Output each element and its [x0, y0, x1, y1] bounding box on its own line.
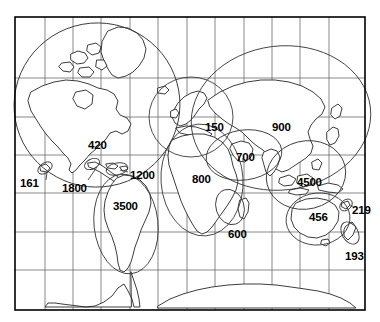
region-value-southern-africa: 600 — [228, 229, 247, 241]
region-value-north-america: 420 — [88, 140, 107, 152]
region-value-hawaii: 161 — [20, 178, 39, 190]
map-canvas — [0, 0, 380, 322]
region-value-central-america: 1800 — [62, 183, 87, 195]
region-value-new-caledonia: 219 — [352, 205, 371, 217]
region-value-europe: 150 — [205, 122, 224, 134]
region-value-south-america: 3500 — [113, 201, 138, 213]
region-value-middle-east: 700 — [236, 152, 255, 164]
region-value-new-zealand: 193 — [345, 251, 364, 263]
coastline-arctic-islands-2 — [87, 43, 101, 55]
region-value-australia: 456 — [309, 212, 328, 224]
region-value-southeast-asia: 4500 — [297, 177, 322, 189]
region-value-caribbean: 1200 — [130, 170, 155, 182]
region-value-asia-north: 900 — [272, 122, 291, 134]
world-map-figure: 420 161 1800 1200 3500 150 800 600 700 9… — [0, 0, 380, 322]
region-value-africa: 800 — [192, 174, 211, 186]
